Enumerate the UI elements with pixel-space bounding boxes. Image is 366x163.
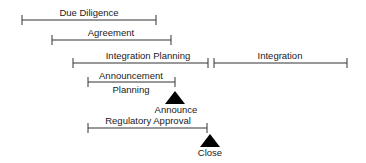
bar-label-integration-planning: Integration Planning xyxy=(106,50,191,61)
milestone-close: Close xyxy=(198,134,222,158)
bar-due-diligence: Due Diligence xyxy=(22,7,156,25)
timeline-diagram: Due Diligence Agreement Integration Plan… xyxy=(0,0,366,163)
milestone-label-announce: Announce xyxy=(155,104,198,115)
bar-integration-planning: Integration Planning xyxy=(73,50,208,68)
bar-regulatory-approval: Regulatory Approval xyxy=(88,115,207,133)
milestone-announce: Announce xyxy=(155,91,198,115)
triangle-milestone-icon xyxy=(165,91,185,104)
bar-announcement-planning: Announcement Planning xyxy=(88,70,175,95)
bar-label-announcement: Announcement xyxy=(99,70,163,81)
milestone-label-close: Close xyxy=(198,147,222,158)
bar-label-regulatory-approval: Regulatory Approval xyxy=(105,115,191,126)
bar-label-agreement: Agreement xyxy=(88,27,135,38)
bar-label-integration: Integration xyxy=(258,50,303,61)
bar-label-planning: Planning xyxy=(113,84,150,95)
bar-integration: Integration xyxy=(214,50,347,68)
bar-label-due-diligence: Due Diligence xyxy=(59,7,118,18)
triangle-milestone-icon xyxy=(200,134,220,147)
bar-agreement: Agreement xyxy=(52,27,171,45)
